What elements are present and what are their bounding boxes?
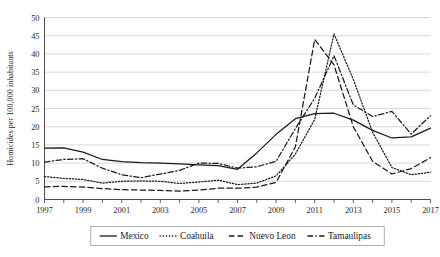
figure-background [0,0,440,257]
y-tick-label: 45 [31,32,39,41]
y-tick-label: 0 [35,196,39,205]
x-tick-label: 1997 [36,206,53,215]
legend-label: Tamaulipas [328,231,371,241]
x-tick-label: 2007 [229,206,246,215]
x-axis-tick-marks [45,200,431,204]
y-tick-label: 5 [35,177,39,186]
x-tick-label: 2001 [113,206,130,215]
y-axis-title: Homicides per 100,000 inhabitants [6,51,15,166]
y-tick-label: 15 [31,141,39,150]
chart-figure: 05101520253035404550 1997199920012003200… [0,0,440,257]
x-tick-label: 2011 [306,206,322,215]
y-tick-label: 50 [31,14,39,23]
y-tick-label: 20 [31,123,39,132]
legend-label: Coahuila [180,231,214,241]
legend-label: Nuevo Leon [249,231,296,241]
y-tick-label: 30 [31,86,39,95]
y-tick-label: 35 [31,68,39,77]
x-tick-label: 2013 [345,206,362,215]
x-tick-label: 2005 [191,206,208,215]
x-tick-label: 2009 [268,206,285,215]
x-tick-label: 2017 [422,206,439,215]
x-tick-label: 2003 [152,206,169,215]
x-tick-label: 2015 [384,206,401,215]
x-tick-label: 1999 [75,206,92,215]
y-tick-label: 10 [31,159,39,168]
legend-label: Mexico [120,231,149,241]
homicide-rate-line-chart: 05101520253035404550 1997199920012003200… [0,0,440,257]
y-tick-label: 25 [31,105,39,114]
y-tick-label: 40 [31,50,39,59]
